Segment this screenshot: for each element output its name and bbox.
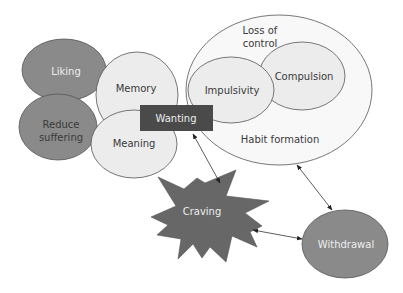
loss-of-control-label-1: Loss of [243, 25, 278, 36]
compulsion-label: Compulsion [275, 71, 334, 82]
reduce-suffering-label-2: suffering [39, 132, 83, 143]
liking-label: Liking [51, 66, 81, 77]
reduce-suffering-label-1: Reduce [43, 119, 80, 130]
wanting-label: Wanting [155, 113, 196, 124]
habit-withdrawal-arrow [297, 165, 332, 210]
memory-label: Memory [116, 83, 157, 94]
impulsivity-label: Impulsivity [205, 85, 260, 96]
withdrawal-label: Withdrawal [318, 239, 374, 250]
craving-label: Craving [183, 206, 222, 217]
meaning-label: Meaning [113, 138, 156, 149]
loss-of-control-label-2: control [243, 38, 278, 49]
habit-formation-label: Habit formation [241, 134, 319, 145]
addiction-diagram: Loss of control Compulsion Impulsivity H… [0, 0, 403, 293]
craving-withdrawal-arrow [253, 230, 302, 239]
